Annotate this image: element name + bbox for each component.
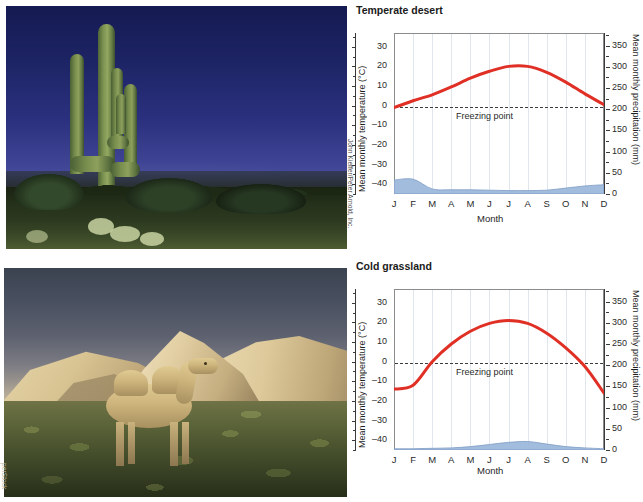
axis-tick-label: 250 (612, 338, 627, 348)
axis-minor-tick (353, 371, 356, 372)
axis-minor-tick (606, 312, 609, 313)
desert-shrub (126, 178, 212, 212)
right-axis (604, 33, 605, 194)
axis-tick (352, 66, 356, 67)
month-label: J (387, 454, 401, 465)
axis-tick (352, 322, 356, 323)
axis-tick-label: 30 (363, 297, 387, 307)
month-label: F (406, 454, 420, 465)
month-label: S (540, 454, 554, 465)
month-label: J (482, 454, 496, 465)
axis-tick (352, 421, 356, 422)
axis-tick (606, 365, 610, 366)
axis-tick-label: –20 (363, 139, 387, 149)
month-label: D (597, 454, 611, 465)
axis-tick (606, 302, 610, 303)
axis-minor-tick (606, 183, 609, 184)
axis-minor-tick (353, 450, 356, 451)
axis-tick-label: 150 (612, 124, 627, 134)
axis-tick (352, 145, 356, 146)
axis-tick-label: 0 (363, 100, 387, 110)
axis-tick-label: –20 (363, 395, 387, 405)
month-label: O (559, 454, 573, 465)
plot-area-temperate: Mean monthly temperature (°C) Mean month… (355, 0, 643, 250)
axis-minor-tick (606, 291, 609, 292)
axis-minor-tick (353, 332, 356, 333)
right-axis-title: Mean monthly precipitation (mm) (631, 290, 641, 450)
axis-minor-tick (353, 174, 356, 175)
axis-tick (352, 440, 356, 441)
bactrian-camel (96, 358, 226, 468)
camel-leg (116, 422, 124, 466)
axis-tick (606, 88, 610, 89)
axis-tick (606, 344, 610, 345)
axis-minor-tick (353, 391, 356, 392)
axis-tick-label: –40 (363, 434, 387, 444)
month-label: N (578, 198, 592, 209)
axis-tick (352, 184, 356, 185)
axis-tick (352, 125, 356, 126)
axis-tick (606, 109, 610, 110)
axis-tick (606, 67, 610, 68)
axis-minor-tick (606, 77, 609, 78)
cactus-bud (116, 94, 126, 134)
axis-minor-tick (606, 35, 609, 36)
axis-tick-label: 20 (363, 60, 387, 70)
axis-minor-tick (606, 439, 609, 440)
plot-area-cold: Mean monthly temperature (°C) Mean month… (355, 256, 643, 502)
axis-tick-label: 30 (363, 41, 387, 51)
month-label: J (387, 198, 401, 209)
axis-minor-tick (606, 397, 609, 398)
axis-tick (352, 401, 356, 402)
axis-tick (606, 429, 610, 430)
photo-credit-grassland: perStock (1, 463, 8, 489)
axis-tick (606, 46, 610, 47)
axis-minor-tick (353, 96, 356, 97)
axis-tick (352, 342, 356, 343)
month-label: M (425, 454, 439, 465)
axis-minor-tick (606, 99, 609, 100)
axis-tick (606, 323, 610, 324)
temperate-desert-photo (6, 6, 347, 249)
axis-tick (606, 173, 610, 174)
axis-tick-label: 50 (612, 423, 622, 433)
desert-shrub (14, 174, 84, 210)
axis-tick-label: 20 (363, 316, 387, 326)
axis-tick (606, 130, 610, 131)
axis-minor-tick (606, 333, 609, 334)
cold-grassland-photo (4, 268, 347, 497)
axis-minor-tick (353, 313, 356, 314)
axis-tick-label: 200 (612, 103, 627, 113)
axis-tick-label: –30 (363, 159, 387, 169)
desert-shrub (216, 184, 306, 214)
axis-tick (606, 450, 610, 451)
axis-tick (606, 194, 610, 195)
axis-minor-tick (353, 430, 356, 431)
axis-tick-label: 50 (612, 167, 622, 177)
axis-tick (352, 362, 356, 363)
month-label: A (521, 198, 535, 209)
axis-minor-tick (606, 418, 609, 419)
axis-tick (352, 303, 356, 304)
cactus-arm-left-elbow (70, 156, 115, 172)
axis-tick (606, 386, 610, 387)
freezing-point-label: Freezing point (456, 367, 513, 377)
axis-tick-label: 200 (612, 359, 627, 369)
axis-tick (606, 408, 610, 409)
camel-leg (182, 422, 189, 464)
axis-minor-tick (353, 115, 356, 116)
month-label: M (463, 198, 477, 209)
month-label: N (578, 454, 592, 465)
axis-minor-tick (353, 293, 356, 294)
axis-tick-label: 150 (612, 380, 627, 390)
axis-tick-label: 100 (612, 402, 627, 412)
freezing-point-label: Freezing point (456, 111, 513, 121)
axis-tick-label: –10 (363, 375, 387, 385)
month-label: A (444, 454, 458, 465)
axis-tick-label: 300 (612, 317, 627, 327)
month-label: F (406, 198, 420, 209)
camel-hump-rear (114, 370, 148, 396)
axis-tick-label: –30 (363, 415, 387, 425)
month-label: A (521, 454, 535, 465)
axis-minor-tick (606, 162, 609, 163)
